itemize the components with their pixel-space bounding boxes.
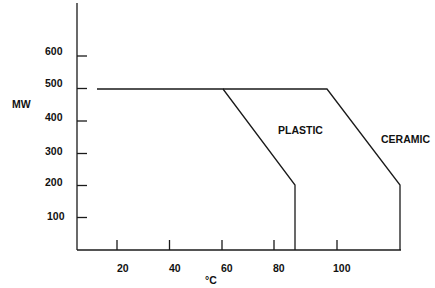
y-tick-label-300: 300 xyxy=(45,145,63,157)
y-tick-label-100: 100 xyxy=(47,210,65,222)
series-ceramic xyxy=(223,89,400,250)
x-tick-label-100: 100 xyxy=(333,262,351,274)
y-axis-label: MW xyxy=(12,98,31,110)
chart-canvas xyxy=(0,0,435,288)
y-tick-label-400: 400 xyxy=(45,111,63,123)
annotation-ceramic: CERAMIC xyxy=(381,133,430,145)
y-tick-label-500: 500 xyxy=(45,77,63,89)
annotation-plastic: PLASTIC xyxy=(278,124,323,136)
x-tick-label-20: 20 xyxy=(117,262,129,274)
x-tick-label-80: 80 xyxy=(273,262,285,274)
series-plastic xyxy=(97,89,295,250)
y-tick-label-200: 200 xyxy=(45,176,63,188)
y-tick-label-600: 600 xyxy=(45,45,63,57)
x-tick-label-40: 40 xyxy=(169,262,181,274)
x-tick-label-60: 60 xyxy=(221,262,233,274)
x-axis-label: °C xyxy=(205,274,217,286)
